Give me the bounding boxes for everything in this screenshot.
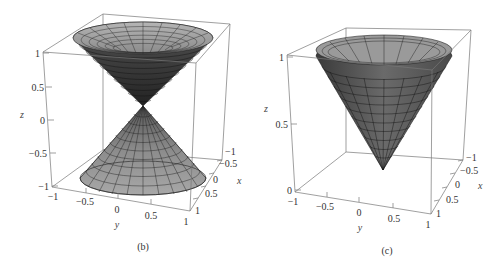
- plot-b-y-label: y: [114, 219, 120, 230]
- plot-c-y-tick: −1: [288, 196, 299, 207]
- plot-c-y-axis: −1 −0.5 0 0.5 1 y: [288, 192, 431, 233]
- plot-c-x-tick: −0.5: [460, 165, 478, 176]
- plot-b-z-tick: −0.5: [29, 148, 47, 159]
- plot-c-x-axis: −1 −0.5 0 0.5 1 x: [434, 152, 483, 219]
- plot-c-x-tick: 1: [436, 208, 441, 219]
- plot-b-upper-cone: [73, 22, 213, 106]
- plot-b: 1 0.5 0 −0.5 −1 z −1 −0.5 0 0.5 1 y −1 −…: [19, 14, 242, 253]
- plot-c-y-tick: −0.5: [316, 201, 334, 212]
- plot-c-z-axis: 1 0.5 0 z: [263, 52, 301, 196]
- plot-b-y-tick: −1: [48, 191, 59, 202]
- plot-c-x-label: x: [477, 180, 483, 191]
- plot-b-x-tick: 0: [213, 174, 218, 185]
- plot-b-y-tick: −0.5: [76, 196, 94, 207]
- plot-b-z-axis: 1 0.5 0 −0.5 −1 z: [19, 48, 58, 192]
- plot-b-x-tick: −1: [225, 146, 236, 157]
- plot-c-z-tick: 0.5: [276, 119, 289, 130]
- plot-c-z-label: z: [263, 103, 268, 114]
- plot-b-z-label: z: [19, 109, 24, 120]
- plot-c-y-label: y: [357, 222, 363, 233]
- figure-canvas: 1 0.5 0 −0.5 −1 z −1 −0.5 0 0.5 1 y −1 −…: [0, 0, 504, 274]
- plot-c-z-tick: 0: [287, 185, 292, 196]
- plot-b-x-label: x: [236, 175, 242, 186]
- plot-b-y-tick: 0: [115, 204, 120, 215]
- plot-b-z-tick: 0.5: [32, 82, 45, 93]
- plot-b-x-tick: −0.5: [219, 158, 237, 169]
- plot-c-x-tick: 0: [455, 179, 460, 190]
- plot-c-z-tick: 1: [279, 52, 284, 63]
- plot-b-caption: (b): [137, 241, 149, 253]
- plot-b-z-tick: 0: [40, 115, 45, 126]
- plot-c: 1 0.5 0 z −1 −0.5 0 0.5 1 y −1 −0.5 0 0.…: [263, 28, 483, 257]
- plot-c-caption: (c): [381, 245, 392, 257]
- plot-c-x-tick: −1: [466, 152, 477, 163]
- plot-b-z-tick: 1: [35, 48, 40, 59]
- plot-c-y-tick: 0: [357, 207, 362, 218]
- plot-b-x-tick: 0.5: [205, 188, 218, 199]
- plot-b-lower-cone: [80, 106, 206, 195]
- plot-b-y-tick: 1: [184, 216, 189, 227]
- plot-b-y-axis: −1 −0.5 0 0.5 1 y: [48, 188, 189, 230]
- plot-c-x-tick: 0.5: [446, 194, 459, 205]
- plot-b-x-tick: 1: [195, 205, 200, 216]
- plot-c-y-tick: 0.5: [388, 213, 401, 224]
- plot-c-y-tick: 1: [426, 219, 431, 230]
- plot-b-y-tick: 0.5: [145, 210, 158, 221]
